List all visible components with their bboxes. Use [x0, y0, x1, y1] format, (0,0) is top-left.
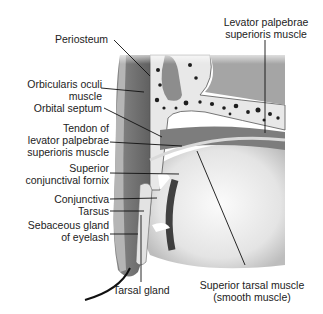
label-orbital-septum: Orbital septum [30, 102, 102, 114]
label-tarsus: Tarsus [30, 205, 109, 217]
label-periosteum: Periosteum [55, 33, 108, 45]
label-conjunctiva: Conjunctiva [30, 193, 109, 205]
eyelid-diagram: Periosteum Orbicularis oculi muscle Orbi… [0, 0, 323, 314]
label-superior-tarsal-muscle: Superior tarsal muscle (smooth muscle) [192, 279, 312, 303]
label-levator-palpebrae: Levator palpebrae superioris muscle [218, 16, 314, 40]
label-tarsal-gland: Tarsal gland [113, 284, 170, 296]
label-sebaceous-gland: Sebaceous gland of eyelash [14, 219, 109, 243]
label-orbicularis-oculi: Orbicularis oculi muscle [24, 78, 102, 102]
label-tendon-levator: Tendon of levator palpebrae superioris m… [24, 122, 109, 158]
label-superior-conjunctival-fornix: Superior conjunctival fornix [14, 162, 109, 186]
